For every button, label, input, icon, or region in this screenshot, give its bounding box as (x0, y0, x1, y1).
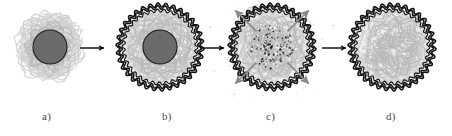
panel-label-b: b) (162, 110, 172, 122)
template-core-a (33, 30, 67, 64)
panel-label-a: a) (42, 110, 51, 122)
panel-label-d: d) (386, 110, 396, 122)
diagram-svg (0, 0, 452, 136)
figure-canvas (0, 0, 452, 136)
panel-b (116, 3, 204, 91)
panel-label-c: c) (266, 110, 275, 122)
panel-d (348, 3, 436, 91)
panel-c (210, 0, 334, 104)
template-core-b (143, 30, 177, 64)
panel-a (14, 10, 85, 82)
